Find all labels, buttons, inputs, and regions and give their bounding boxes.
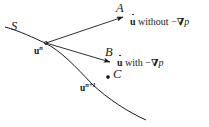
- point-label-c: C: [113, 68, 121, 81]
- curve-label-s: S: [11, 20, 17, 33]
- annotation-without-word: without: [138, 16, 169, 27]
- pressure-symbol-with: p: [159, 57, 164, 68]
- arrow-to-b: [46, 43, 110, 62]
- point-label-b: B: [105, 46, 113, 59]
- udot-symbol-with: u: [117, 58, 123, 68]
- annotation-with-pressure-gradient: u with −∇p: [117, 58, 164, 68]
- pressure-symbol-without: p: [184, 16, 189, 27]
- vector-label-un: un: [34, 47, 43, 57]
- nabla-icon-with: ∇: [151, 57, 159, 68]
- annotation-with-word: with: [125, 57, 143, 68]
- vector-label-un-plus-1: un+1: [80, 84, 96, 94]
- annotation-without-pressure-gradient: u without −∇p: [130, 17, 189, 27]
- vector-diagram-figure: S A B C un un+1 u without −∇p u with −∇p: [0, 0, 209, 127]
- vector-un1-superscript: n+1: [85, 81, 96, 88]
- arrow-to-a: [46, 17, 123, 43]
- node-marker-c: [107, 76, 110, 79]
- trajectory-curve-s: [5, 27, 146, 120]
- vector-un-superscript: n: [39, 44, 43, 51]
- udot-symbol-without: u: [130, 17, 136, 27]
- point-label-a: A: [116, 2, 124, 15]
